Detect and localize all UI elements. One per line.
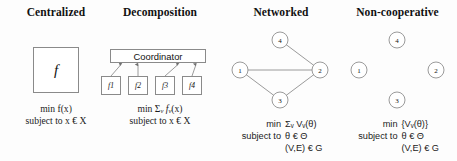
- panel-decomposition: Decomposition Coordinator f1 f2 f3 f4: [96, 0, 224, 161]
- networked-subject-value: θ € Θ: [285, 130, 329, 142]
- networked-node-circle-4: [272, 32, 288, 48]
- noncooperative-node-4: 4: [389, 32, 405, 48]
- subproblem-label-4: f4: [183, 77, 201, 94]
- networked-node-2: 2: [312, 62, 328, 78]
- centralized-objective-box: f: [33, 47, 79, 93]
- decomposition-formula-line2: subject to x € X: [96, 115, 224, 127]
- noncooperative-node-2: 2: [428, 62, 444, 78]
- decomposition-min: min: [137, 103, 152, 114]
- networked-node-label-4: 4: [278, 37, 282, 45]
- networked-node-3: 3: [272, 92, 288, 108]
- noncooperative-node-circle-1: [351, 62, 367, 78]
- decomposition-formula-line1: min Σv fv(x): [96, 103, 224, 115]
- panel-title-decomposition: Decomposition: [96, 6, 224, 18]
- noncooperative-formula: min {Vᵥ(θ)} subject to θ € Θ (V,E) € G: [338, 118, 457, 154]
- networked-formula-row-subject: subject to θ € Θ: [222, 130, 340, 142]
- noncooperative-subject-label: subject to: [350, 130, 402, 142]
- networked-node-circle-2: [312, 62, 328, 78]
- noncooperative-node-label-1: 1: [357, 67, 361, 75]
- edge-1-3: [240, 70, 280, 100]
- noncooperative-node-label-4: 4: [395, 37, 399, 45]
- subproblem-box-2: f2: [128, 76, 148, 95]
- panel-networked: Networked 4123 min Σᵥ Vᵥ(θ) subject to θ…: [222, 0, 340, 161]
- networked-subject-label: subject to: [233, 130, 285, 142]
- noncooperative-node-circle-4: [389, 32, 405, 48]
- noncooperative-formula-row-constraint: (V,E) € G: [338, 142, 457, 154]
- networked-node-4: 4: [272, 32, 288, 48]
- networked-node-label-3: 3: [278, 97, 282, 105]
- noncooperative-node-label-2: 2: [434, 67, 438, 75]
- networked-constraint-spacer: [233, 142, 285, 154]
- coordinator-label: Coordinator: [111, 50, 205, 62]
- subproblem-label-3: f3: [156, 77, 174, 94]
- noncooperative-constraint-value: (V,E) € G: [402, 142, 446, 154]
- networked-formula-row-constraint: (V,E) € G: [222, 142, 340, 154]
- subproblem-box-4: f4: [182, 76, 202, 95]
- noncooperative-constraint-spacer: [350, 142, 402, 154]
- networked-min-label: min: [233, 118, 285, 130]
- coordinator-box: Coordinator: [110, 49, 206, 63]
- panel-noncooperative: Non-cooperative 4123 min {Vᵥ(θ)} subject…: [338, 0, 457, 161]
- panel-title-networked: Networked: [222, 6, 340, 18]
- networked-constraint-value: (V,E) € G: [285, 142, 329, 154]
- networked-node-label-1: 1: [238, 67, 242, 75]
- noncooperative-node-1: 1: [351, 62, 367, 78]
- networked-min-value: Σᵥ Vᵥ(θ): [285, 118, 329, 130]
- noncooperative-node-circle-2: [428, 62, 444, 78]
- networked-formula-row-min: min Σᵥ Vᵥ(θ): [222, 118, 340, 130]
- subproblem-box-1: f1: [101, 76, 121, 95]
- networked-edges: [240, 40, 320, 100]
- subproblem-label-1: f1: [102, 77, 120, 94]
- networked-node-label-2: 2: [318, 67, 322, 75]
- networked-node-circle-3: [272, 92, 288, 108]
- networked-node-circle-1: [232, 62, 248, 78]
- decomposition-arg: (x): [171, 103, 182, 114]
- decomposition-formula: min Σv fv(x) subject to x € X: [96, 103, 224, 126]
- noncooperative-subject-value: θ € Θ: [402, 130, 446, 142]
- decomposition-sum-sub: v: [160, 107, 163, 114]
- diagram-canvas: Centralized f min f(x) subject to x € X …: [0, 0, 457, 161]
- edge-2-3: [280, 70, 320, 100]
- noncooperative-formula-row-subject: subject to θ € Θ: [338, 130, 457, 142]
- networked-formula: min Σᵥ Vᵥ(θ) subject to θ € Θ (V,E) € G: [222, 118, 340, 154]
- subproblem-box-3: f3: [155, 76, 175, 95]
- noncooperative-node-3: 3: [389, 92, 405, 108]
- networked-node-1: 1: [232, 62, 248, 78]
- centralized-objective-label: f: [34, 48, 78, 92]
- edge-4-2: [280, 40, 320, 70]
- noncooperative-node-label-3: 3: [395, 97, 399, 105]
- noncooperative-formula-row-min: min {Vᵥ(θ)}: [338, 118, 457, 130]
- panel-title-noncooperative: Non-cooperative: [338, 6, 457, 18]
- subproblem-label-2: f2: [129, 77, 147, 94]
- noncooperative-min-value: {Vᵥ(θ)}: [402, 118, 446, 130]
- noncooperative-min-label: min: [350, 118, 402, 130]
- noncooperative-node-circle-3: [389, 92, 405, 108]
